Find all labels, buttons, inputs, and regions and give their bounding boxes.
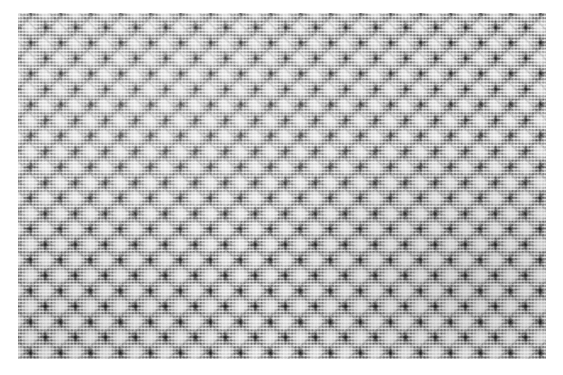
weave-yarn-speckle-layer xyxy=(18,13,546,359)
photo-frame: Close-up photograph of a grey woven text… xyxy=(0,0,563,375)
fabric-texture-swatch xyxy=(18,13,546,359)
